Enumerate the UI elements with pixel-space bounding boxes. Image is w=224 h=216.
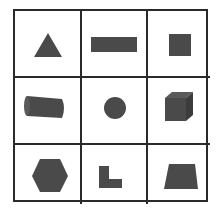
trapezoid-icon: [148, 145, 210, 204]
cell-l-shape: [82, 145, 148, 204]
cell-trapezoid: [148, 145, 210, 204]
cell-hexagon: [15, 145, 82, 204]
cell-triangle: [15, 11, 82, 78]
l-shape-icon: [82, 145, 146, 204]
rectangle-icon: [82, 11, 146, 76]
cell-rectangle: [82, 11, 148, 78]
triangle-icon: [15, 11, 80, 76]
shape-grid: [13, 9, 208, 202]
cell-circle: [82, 78, 148, 145]
cell-square: [148, 11, 210, 78]
square-icon: [148, 11, 210, 76]
circle-icon: [82, 78, 146, 143]
cube-icon: [148, 78, 210, 143]
cell-cylinder: [15, 78, 82, 145]
cylinder-icon: [15, 78, 80, 143]
hexagon-icon: [15, 145, 80, 204]
cell-cube: [148, 78, 210, 145]
